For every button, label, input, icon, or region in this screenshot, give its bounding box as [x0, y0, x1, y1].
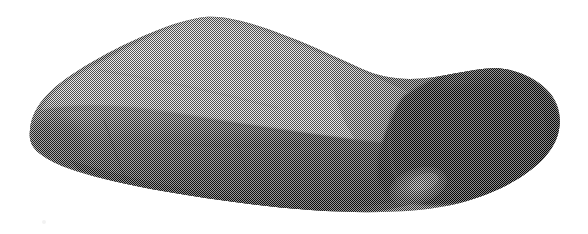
- halftone-screen-overlay-multiply: [0, 0, 588, 234]
- object-artwork: [0, 0, 588, 234]
- paper-speck: [42, 220, 46, 224]
- halftone-illustration: A three-quarter view of a soft rounded r…: [0, 0, 588, 234]
